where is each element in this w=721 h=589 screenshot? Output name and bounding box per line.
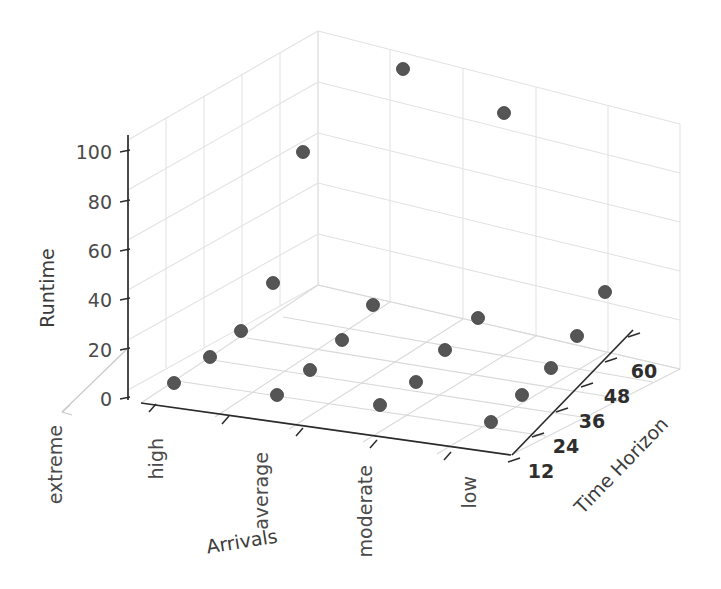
data-point — [297, 146, 310, 159]
axis-text-layer: 100 80 60 40 20 0 Runtime extreme high a… — [36, 141, 672, 558]
axis-spines — [62, 135, 633, 455]
data-point — [545, 362, 558, 375]
y-tick-label-12: 12 — [528, 460, 554, 482]
data-point — [374, 399, 387, 412]
data-point — [410, 376, 423, 389]
data-point — [304, 364, 317, 377]
data-point — [204, 351, 217, 364]
scatter3d-plot-canvas: 100 80 60 40 20 0 Runtime extreme high a… — [0, 0, 721, 589]
y-tick-label-60: 60 — [631, 360, 657, 382]
z-tick-label: 20 — [88, 339, 112, 361]
x-axis-title: Arrivals — [205, 525, 279, 558]
x-tick-marks — [149, 404, 451, 460]
plot-svg: 100 80 60 40 20 0 Runtime extreme high a… — [0, 0, 721, 589]
data-point — [439, 344, 452, 357]
y-tick-label-36: 36 — [579, 410, 605, 432]
x-tick-label-moderate: moderate — [354, 465, 376, 557]
data-point — [498, 107, 511, 120]
data-point — [485, 416, 498, 429]
x-tick-label-extreme: extreme — [44, 425, 66, 504]
data-point — [397, 63, 410, 76]
left-wall-gridlines — [128, 31, 318, 390]
x-tick-label-average: average — [250, 452, 272, 530]
z-tick-label: 0 — [100, 388, 112, 410]
back-wall-gridlines — [318, 31, 680, 369]
data-point — [336, 334, 349, 347]
data-point — [267, 277, 280, 290]
data-point — [235, 325, 248, 338]
z-tick-label: 100 — [76, 141, 112, 163]
y-tick-label-48: 48 — [604, 385, 630, 407]
data-point — [599, 286, 612, 299]
data-point — [271, 389, 284, 402]
data-point — [367, 299, 380, 312]
z-tick-label: 80 — [88, 191, 112, 213]
z-tick-label: 40 — [88, 289, 112, 311]
x-tick-label-low: low — [458, 476, 480, 508]
data-point — [516, 389, 529, 402]
data-point — [472, 312, 485, 325]
data-point — [571, 330, 584, 343]
y-tick-label-24: 24 — [553, 435, 579, 457]
data-point — [168, 377, 181, 390]
z-axis-title: Runtime — [36, 248, 58, 327]
x-tick-label-high: high — [145, 438, 167, 479]
z-tick-label: 60 — [88, 240, 112, 262]
